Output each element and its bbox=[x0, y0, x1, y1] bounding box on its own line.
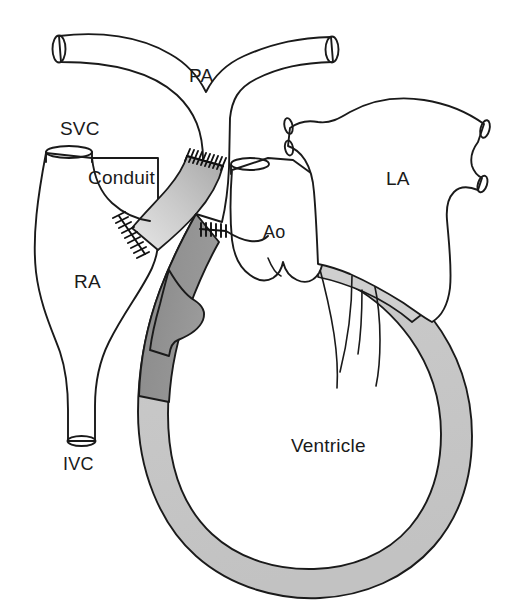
label-pa: PA bbox=[189, 65, 213, 86]
label-la: LA bbox=[386, 168, 410, 189]
av-valve-leaflet-mid bbox=[340, 276, 352, 372]
aorta-group bbox=[231, 158, 325, 282]
label-ventricle: Ventricle bbox=[291, 435, 366, 456]
papillary-muscle-inner bbox=[358, 290, 362, 354]
lpv-superior-stump bbox=[283, 117, 294, 134]
aorta-body bbox=[231, 158, 325, 282]
cardiac-diagram-canvas: SVC Conduit PA LA Ao RA IVC Ventricle bbox=[0, 0, 531, 613]
heart-anatomy-illustration: SVC Conduit PA LA Ao RA IVC Ventricle bbox=[0, 0, 531, 613]
label-conduit: Conduit bbox=[88, 167, 155, 188]
label-ra: RA bbox=[74, 271, 101, 292]
left-atrium-body bbox=[288, 99, 484, 323]
label-ivc: IVC bbox=[63, 454, 94, 474]
label-ao: Ao bbox=[263, 222, 285, 242]
label-svc: SVC bbox=[60, 118, 100, 139]
